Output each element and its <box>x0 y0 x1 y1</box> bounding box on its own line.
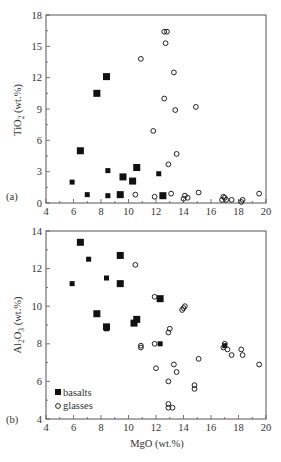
y-tick-label: 3 <box>37 166 42 177</box>
legend-glasses-label: glasses <box>63 400 93 411</box>
glass-point <box>152 294 157 299</box>
glass-point <box>163 41 168 46</box>
basalt-point <box>85 192 90 197</box>
y-axis-label-b: Al2O3 (wt.%) <box>12 296 26 354</box>
glass-point <box>166 379 171 384</box>
x-axis-label: MgO (wt.%) <box>130 438 184 450</box>
basalt-point <box>105 193 110 198</box>
glass-point <box>173 108 178 113</box>
panel-a-tio2-vs-mgo: 4681012141618200369121518 <box>32 10 272 218</box>
basalt-point <box>77 147 84 154</box>
scatter-chart: 4681012141618200369121518 46810121416182… <box>0 0 281 462</box>
basalt-point <box>133 164 140 171</box>
y-tick-label: 12 <box>32 72 43 83</box>
basalt-point <box>156 171 161 176</box>
glass-point <box>166 162 171 167</box>
y-tick-label: 6 <box>37 376 42 387</box>
glass-point <box>225 347 230 352</box>
x-tick-label: 16 <box>206 206 217 217</box>
panel-b-label: (b) <box>6 414 19 426</box>
glass-point <box>196 190 201 195</box>
glass-point <box>171 70 176 75</box>
glass-point <box>133 262 138 267</box>
basalt-point <box>104 276 109 281</box>
basalt-point <box>117 280 124 287</box>
y-tick-label: 15 <box>32 41 43 52</box>
basalt-point <box>86 257 91 262</box>
basalt-point <box>158 341 163 346</box>
glass-point <box>169 191 174 196</box>
basalt-point <box>70 281 75 286</box>
x-tick-label: 8 <box>98 422 103 433</box>
x-tick-label: 10 <box>123 206 134 217</box>
y-tick-label: 14 <box>32 226 43 237</box>
x-tick-label: 6 <box>71 206 76 217</box>
basalt-point <box>70 180 75 185</box>
panel-a-label: (a) <box>6 191 18 203</box>
basalt-point <box>129 178 136 185</box>
glass-point <box>196 356 201 361</box>
glass-point <box>257 191 262 196</box>
legend: basalts glasses <box>55 387 93 411</box>
legend-basalts-label: basalts <box>63 387 92 398</box>
plot-frame <box>46 15 266 203</box>
glass-point <box>152 341 157 346</box>
glass-point <box>257 362 262 367</box>
glass-point <box>138 56 143 61</box>
glass-point <box>152 194 157 199</box>
glass-point <box>151 129 156 134</box>
glass-point <box>239 347 244 352</box>
x-tick-label: 20 <box>261 206 272 217</box>
y-tick-label: 18 <box>32 10 43 21</box>
y-tick-label: 12 <box>32 263 43 274</box>
glass-point <box>193 105 198 110</box>
glass-point <box>240 353 245 358</box>
legend-glasses-marker <box>56 404 61 409</box>
x-tick-label: 12 <box>151 422 162 433</box>
glass-point <box>162 96 167 101</box>
x-tick-label: 20 <box>261 422 272 433</box>
basalt-point <box>133 316 140 323</box>
y-tick-label: 4 <box>37 414 43 425</box>
x-tick-label: 6 <box>71 422 76 433</box>
x-tick-label: 4 <box>43 206 49 217</box>
x-tick-label: 8 <box>98 206 103 217</box>
basalt-point <box>159 192 166 199</box>
basalt-point <box>93 90 100 97</box>
y-tick-label: 6 <box>37 135 42 146</box>
x-tick-label: 10 <box>123 422 134 433</box>
y-tick-label: 9 <box>37 104 42 115</box>
basalt-point <box>120 173 127 180</box>
basalt-point <box>105 168 110 173</box>
x-tick-label: 18 <box>233 206 244 217</box>
legend-basalts-marker <box>55 389 61 395</box>
x-tick-label: 4 <box>43 422 49 433</box>
x-tick-label: 18 <box>233 422 244 433</box>
basalt-point <box>117 191 124 198</box>
glass-point <box>174 152 179 157</box>
x-tick-label: 12 <box>151 206 162 217</box>
x-tick-label: 16 <box>206 422 217 433</box>
glass-point <box>229 197 234 202</box>
basalt-point <box>103 73 110 80</box>
y-axis-label-a: TiO2 (wt.%) <box>12 84 26 136</box>
basalt-point <box>93 310 100 317</box>
glass-point <box>229 353 234 358</box>
basalt-point <box>104 326 109 331</box>
glass-point <box>171 362 176 367</box>
y-tick-label: 8 <box>37 338 42 349</box>
glass-point <box>174 370 179 375</box>
y-tick-label: 0 <box>37 198 42 209</box>
glass-point <box>154 366 159 371</box>
y-tick-label: 10 <box>32 301 43 312</box>
glass-point <box>133 192 138 197</box>
basalt-point <box>157 295 164 302</box>
x-tick-label: 14 <box>178 422 189 433</box>
basalt-point <box>117 252 124 259</box>
x-tick-label: 14 <box>178 206 189 217</box>
basalt-point <box>77 239 84 246</box>
